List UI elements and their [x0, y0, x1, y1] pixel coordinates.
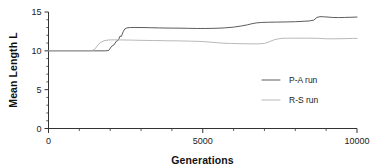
legend-label-0: P-A run	[289, 75, 318, 85]
y-tick-label: 0	[36, 124, 41, 134]
line-chart: 051015 0500010000 P-A runR-S run	[0, 0, 385, 168]
y-tick-label: 10	[31, 46, 41, 56]
x-tick-label: 10000	[344, 136, 369, 146]
chart-figure: 051015 0500010000 P-A runR-S run Mean Le…	[0, 0, 385, 168]
x-tick-label: 0	[46, 136, 51, 146]
y-tick-label: 15	[31, 7, 41, 17]
y-tick-label: 5	[36, 85, 41, 95]
x-tick-label: 5000	[193, 136, 213, 146]
legend-label-1: R-S run	[289, 95, 319, 105]
